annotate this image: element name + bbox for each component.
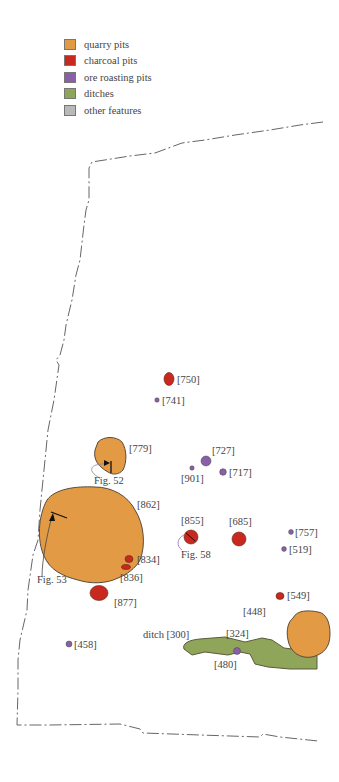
quarry-pit-448: [287, 611, 330, 657]
label-855: [855]: [181, 515, 204, 526]
label-727: [727]: [212, 445, 235, 456]
quarry-pit-779: [95, 438, 126, 475]
fig58-pointer: [178, 535, 184, 550]
label-901: [901]: [181, 473, 204, 484]
label-519: [519]: [289, 544, 312, 555]
ore-pit-757: [289, 530, 294, 535]
ore-pit-480: [234, 648, 241, 655]
label-836: [836]: [120, 572, 143, 583]
label-480: [480]: [214, 659, 237, 670]
label-757: [757]: [295, 527, 318, 538]
label-779: [779]: [129, 443, 152, 454]
label-458: [458]: [74, 639, 97, 650]
label-ditch-300: ditch [300]: [143, 629, 189, 640]
ore-pit-519: [282, 547, 287, 552]
ore-pit-458: [66, 641, 72, 647]
label-834: [834]: [137, 554, 160, 565]
label-685: [685]: [229, 516, 252, 527]
charcoal-pit-836: [122, 565, 131, 570]
label-741: [741]: [162, 395, 185, 406]
label-fig52: Fig. 52: [94, 475, 124, 486]
label-750: [750]: [177, 374, 200, 385]
charcoal-pit-549: [276, 593, 284, 600]
label-324: [324]: [226, 628, 249, 639]
ore-pit-717: [220, 469, 227, 476]
label-448: [448]: [243, 606, 266, 617]
label-549: [549]: [287, 590, 310, 601]
charcoal-pit-834: [125, 556, 133, 563]
label-717: [717]: [229, 467, 252, 478]
charcoal-pit-685: [232, 532, 246, 546]
ore-pit-901: [190, 466, 194, 470]
label-fig58: Fig. 58: [181, 549, 211, 560]
label-862: [862]: [137, 499, 160, 510]
ore-pit-727: [201, 456, 211, 466]
site-plan: [750] [741] [779] Fig. 52 [727] [901] [7…: [0, 0, 339, 782]
ore-pit-741: [155, 398, 159, 402]
charcoal-pit-750: [164, 373, 174, 386]
charcoal-pit-877: [90, 586, 108, 601]
label-877: [877]: [114, 597, 137, 608]
label-fig53: Fig. 53: [37, 574, 67, 585]
